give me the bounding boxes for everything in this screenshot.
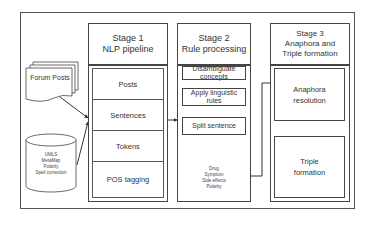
- db-item: Polarity: [186, 184, 242, 190]
- stage2-title: Stage 2: [198, 33, 229, 44]
- stage3-subtitle: Anaphora and: [285, 39, 335, 49]
- output-database: Drug Symptom Side effects Polarity: [186, 166, 242, 190]
- step-apply-rules: Apply linguistic rules: [182, 88, 246, 106]
- forum-posts-label: Forum Posts: [28, 73, 72, 82]
- stage1-panel: Stage 1 NLP pipeline Posts Sentences Tok…: [88, 23, 168, 202]
- step-sentences: Sentences: [93, 100, 163, 131]
- step-anaphora-resolution: Anaphora resolution: [274, 68, 345, 121]
- stage1-steps: Posts Sentences Tokens POS tagging: [92, 68, 164, 198]
- stage2-header: Stage 2 Rule processing: [178, 24, 250, 66]
- stage1-header: Stage 1 NLP pipeline: [89, 24, 167, 66]
- step-tokens: Tokens: [93, 131, 163, 162]
- stage3-subtitle-2: Triple formation: [282, 49, 337, 59]
- db-item: Spell correction: [26, 170, 76, 176]
- stage3-header: Stage 3 Anaphora and Triple formation: [271, 24, 349, 66]
- stage1-subtitle: NLP pipeline: [103, 44, 154, 55]
- step-triple-formation: Triple formation: [274, 136, 345, 198]
- stage2-subtitle: Rule processing: [182, 44, 247, 55]
- step-pos-tagging: POS tagging: [93, 162, 163, 197]
- step-disambiguate: Disambiguate concepts: [182, 66, 246, 80]
- stage3-title: Stage 3: [296, 29, 324, 39]
- resources-database: UMLS MetaMap Polarity Spell correction: [26, 152, 76, 176]
- step-posts: Posts: [93, 69, 163, 100]
- step-split-sentence: Split sentence: [182, 117, 246, 135]
- stage1-title: Stage 1: [112, 33, 143, 44]
